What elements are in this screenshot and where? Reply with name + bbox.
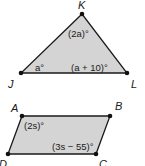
vertex-j-label: J (7, 78, 14, 90)
vertex-d-dot (6, 152, 11, 157)
vertex-c-dot (94, 152, 99, 157)
vertex-d-label: D (0, 158, 7, 166)
vertex-k-label: K (78, 0, 86, 11)
angle-a-label: (2s)° (24, 120, 44, 131)
vertex-l-label: L (131, 78, 137, 90)
vertex-k-dot (80, 12, 85, 17)
vertex-l-dot (125, 71, 130, 76)
angle-c-label: (3s − 55)° (52, 141, 94, 152)
angle-j-label: a° (35, 62, 44, 73)
geometry-figure: K J L (2a)° a° (a + 10)° A B C D (2s)° (… (0, 0, 145, 166)
vertex-c-label: C (99, 158, 107, 166)
vertex-b-dot (108, 114, 113, 119)
vertex-j-dot (19, 71, 24, 76)
angle-k-label: (2a)° (68, 28, 89, 39)
vertex-a-label: A (10, 102, 18, 114)
vertex-a-dot (20, 114, 25, 119)
vertex-b-label: B (115, 100, 122, 112)
angle-l-label: (a + 10)° (71, 62, 108, 73)
